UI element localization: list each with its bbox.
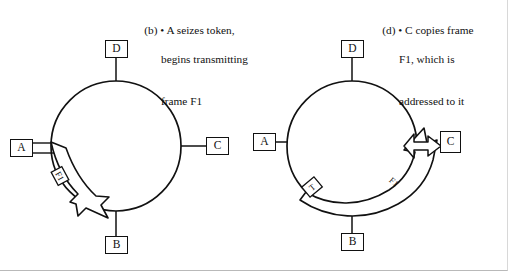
- panel-d-graphics: T F1: [276, 58, 441, 233]
- panel-b-node-c[interactable]: C: [206, 137, 229, 155]
- panel-b-node-a[interactable]: A: [10, 139, 33, 157]
- panel-d-frame-arrow: [300, 128, 437, 216]
- panel-b-node-d[interactable]: D: [105, 40, 128, 58]
- panel-b-graphics: F1: [33, 58, 206, 236]
- panel-b-ring-circle: [51, 81, 181, 211]
- panel-d-node-a[interactable]: A: [253, 133, 276, 151]
- figure-container: (b) • A seizes token, begins transmittin…: [0, 0, 508, 271]
- panel-d-node-c[interactable]: C: [440, 131, 461, 153]
- panel-d-node-b[interactable]: B: [341, 233, 364, 251]
- panel-b-node-b[interactable]: B: [105, 236, 128, 254]
- panel-d-node-d[interactable]: D: [341, 40, 364, 58]
